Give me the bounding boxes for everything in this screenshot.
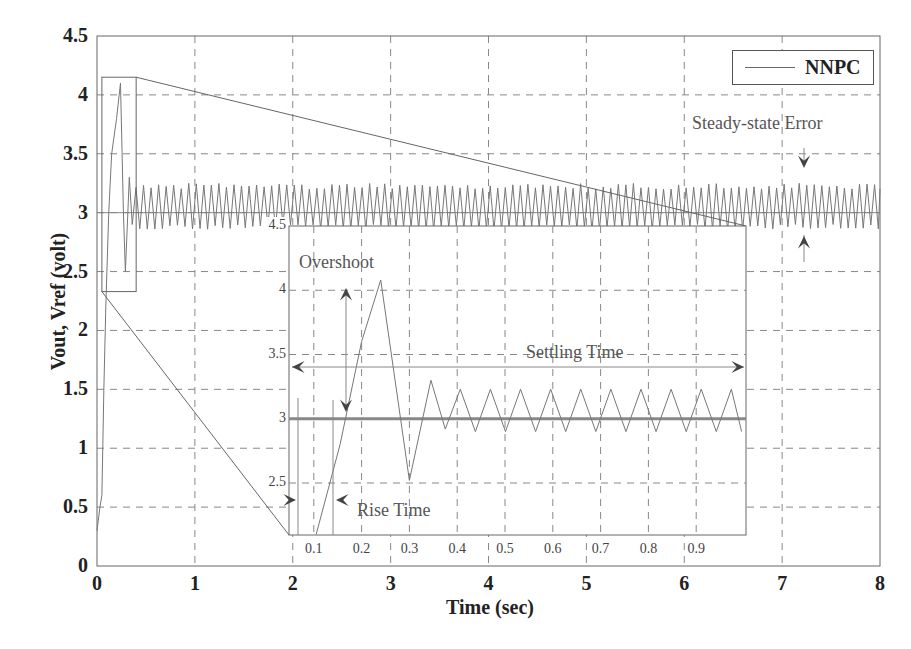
y-tick-label: 0 xyxy=(38,554,88,577)
inset-y-tick-label: 4.5 xyxy=(262,217,286,233)
annotation-overshoot: Overshoot xyxy=(299,252,374,273)
x-tick-label: 7 xyxy=(767,572,797,595)
y-tick-label: 0.5 xyxy=(38,495,88,518)
inset-x-tick-label: 0.4 xyxy=(442,541,472,557)
annotation-steady-state-error: Steady-state Error xyxy=(692,113,822,134)
x-tick-label: 1 xyxy=(180,572,210,595)
inset-x-tick-label: 0.7 xyxy=(586,541,616,557)
inset-y-tick-label: 3 xyxy=(262,410,286,426)
inset-y-tick-label: 4 xyxy=(262,281,286,297)
legend-line-swatch xyxy=(745,67,795,68)
inset-x-tick-label: 0.9 xyxy=(681,541,711,557)
inset-x-tick-label: 0.3 xyxy=(394,541,424,557)
x-tick-label: 3 xyxy=(376,572,406,595)
y-tick-label: 4.5 xyxy=(38,24,88,47)
inset-x-tick-label: 0.2 xyxy=(347,541,377,557)
x-axis-label: Time (sec) xyxy=(390,596,590,619)
x-tick-label: 8 xyxy=(865,572,895,595)
x-tick-label: 0 xyxy=(82,572,112,595)
annotation-settling-time: Settling Time xyxy=(526,342,624,363)
annotation-rise-time: Rise Time xyxy=(357,500,431,521)
y-tick-label: 3.5 xyxy=(38,142,88,165)
inset-y-tick-label: 3.5 xyxy=(262,346,286,362)
x-tick-label: 5 xyxy=(571,572,601,595)
inset-x-tick-label: 0.5 xyxy=(490,541,520,557)
y-tick-label: 4 xyxy=(38,83,88,106)
inset-y-tick-label: 2.5 xyxy=(262,474,286,490)
inset-x-tick-label: 0.1 xyxy=(299,541,329,557)
x-tick-label: 2 xyxy=(278,572,308,595)
y-axis-label: Vout, Vref (volt) xyxy=(47,172,70,432)
legend: NNPC xyxy=(732,50,874,85)
inset-x-tick-label: 0.8 xyxy=(633,541,663,557)
x-tick-label: 4 xyxy=(474,572,504,595)
y-tick-label: 1 xyxy=(38,436,88,459)
x-tick-label: 6 xyxy=(669,572,699,595)
inset-x-tick-label: 0.6 xyxy=(538,541,568,557)
legend-label: NNPC xyxy=(805,56,861,79)
